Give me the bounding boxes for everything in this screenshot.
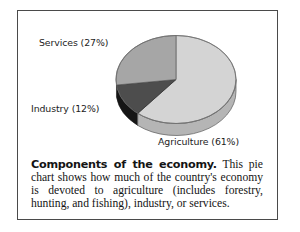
- pie-label-agriculture: Agriculture (61%): [158, 136, 239, 147]
- services-wedge: [116, 36, 176, 86]
- figure-caption: Components of the economy. This pie char…: [31, 158, 263, 210]
- pie-label-industry: Industry (12%): [31, 103, 99, 114]
- caption-lead-in: Components of the economy.: [31, 158, 217, 171]
- figure-container: Services (27%) Industry (12%) Agricultur…: [0, 0, 300, 232]
- figure-frame: Services (27%) Industry (12%) Agricultur…: [17, 10, 278, 220]
- pie-chart: Services (27%) Industry (12%) Agricultur…: [18, 11, 279, 148]
- pie-label-services: Services (27%): [39, 37, 108, 48]
- pie-chart-svg: [96, 15, 256, 145]
